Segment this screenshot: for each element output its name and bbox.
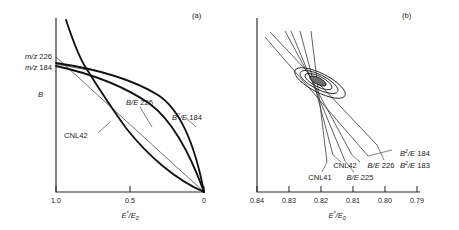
panel-a-leader-cnl42 <box>98 122 110 133</box>
panel-b-leader-cnl41 <box>322 162 327 172</box>
panel-a-ticklabel-0: 1.0 <box>51 196 61 205</box>
panel-b-ticklabel-4: 0.80 <box>378 196 392 205</box>
panel-b-label-cnl42: CNL42 <box>333 161 357 170</box>
panel-b-line-b2e183 <box>270 32 377 145</box>
panel-b-line-cnl41 <box>311 31 327 162</box>
panel-a-mz184-label: m/z 184 <box>25 63 52 72</box>
panel-b-xlabel: E*/E0 <box>328 210 345 221</box>
panel-b-label: (b) <box>402 11 412 20</box>
panel-a-label: (a) <box>192 11 202 20</box>
panel-a-leader-be226 <box>140 107 152 127</box>
panel-b: (b) CNL41 CNL42 B/E 225 B/E 226 B2/E 183… <box>250 11 430 221</box>
panel-b-ticklabel-2: 0.82 <box>314 196 328 205</box>
panel-a-mz226-label: m/z 226 <box>25 52 52 61</box>
panel-a-label-b2e184: B2/E 184 <box>172 112 202 122</box>
panel-b-label-be226: B/E 226 <box>367 161 394 170</box>
panel-a-ticklabel-1: 0.5 <box>125 196 135 205</box>
panel-b-ticklabel-3: 0.81 <box>346 196 360 205</box>
panel-a-label-be226: B/E 226 <box>126 98 153 107</box>
panel-a-curve-b2e184 <box>56 63 204 192</box>
panel-b-ticklabel-5: 0.79 <box>410 196 424 205</box>
panel-b-label-b2e183: B2/E 183 <box>400 160 430 170</box>
panel-a: (a) m/z 226 m/z 184 B B/E 226 B2/E 184 C… <box>25 11 206 221</box>
panel-b-label-b2e184: B2/E 184 <box>400 148 430 158</box>
panel-a-label-cnl42: CNL42 <box>64 131 88 140</box>
svg-text:m/z 184: m/z 184 <box>25 63 52 72</box>
panel-b-line-be225 <box>291 31 345 161</box>
panel-b-label-cnl41: CNL41 <box>308 173 332 182</box>
panel-b-ticklabel-1: 0.83 <box>282 196 296 205</box>
figure-svg: (a) m/z 226 m/z 184 B B/E 226 B2/E 184 C… <box>0 0 459 230</box>
panel-a-xlabel: E*/E0 <box>121 210 138 221</box>
panel-a-curve-be226 <box>56 66 204 192</box>
panel-a-ticklabel-2: 0 <box>202 196 206 205</box>
panel-b-ticklabel-0: 0.84 <box>250 196 264 205</box>
panel-a-ylabel: B <box>38 90 43 99</box>
panel-b-label-be225: B/E 225 <box>346 173 373 182</box>
figure-container: (a) m/z 226 m/z 184 B B/E 226 B2/E 184 C… <box>0 0 459 230</box>
panel-b-line-b2e184 <box>265 37 368 156</box>
svg-text:m/z 226: m/z 226 <box>25 52 52 61</box>
